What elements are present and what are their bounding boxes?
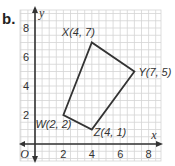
x-axis-label: x [150, 128, 157, 142]
x-axis-arrow-right [156, 141, 163, 147]
y-tick-label: 4 [23, 80, 29, 92]
y-axis-arrow-up [32, 6, 38, 13]
y-tick-label: 8 [23, 22, 29, 34]
vertex-label-z: Z(4, 1) [93, 126, 127, 138]
x-tick-label: 6 [117, 148, 123, 160]
coordinate-plane: 24682468Oxy W(2, 2)X(4, 7)Y(7, 5)Z(4, 1) [0, 0, 175, 166]
y-axis-arrow-down [32, 156, 38, 163]
y-axis-label: y [38, 6, 45, 20]
y-tick-label: 2 [23, 109, 29, 121]
vertex-label-y: Y(7, 5) [138, 66, 171, 78]
x-tick-label: 2 [60, 148, 66, 160]
x-tick-label: 8 [146, 148, 152, 160]
y-tick-label: 6 [23, 51, 29, 63]
vertex-label-w: W(2, 2) [35, 118, 71, 130]
x-tick-label: 4 [89, 148, 95, 160]
origin-label: O [20, 147, 29, 161]
vertex-label-x: X(4, 7) [61, 26, 95, 38]
